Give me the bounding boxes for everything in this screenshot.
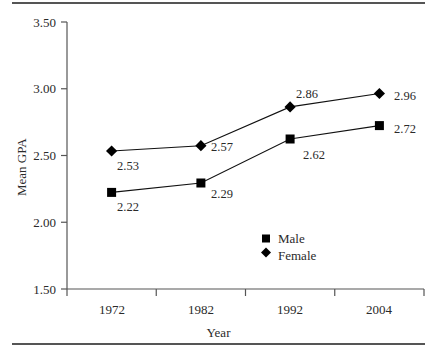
x-axis-title: Year (0, 325, 437, 341)
data-label-male-1992: 2.62 (303, 149, 325, 162)
legend-square-marker (262, 235, 270, 243)
marker-female-1972 (106, 145, 117, 156)
x-tick-label-1982: 1982 (171, 303, 231, 316)
x-tick-label-2004: 2004 (349, 303, 409, 316)
marker-male-1992 (286, 135, 295, 144)
x-tick-label-1972: 1972 (82, 303, 142, 316)
marker-male-1982 (196, 179, 205, 188)
x-tick-label-1992: 1992 (260, 303, 320, 316)
data-label-female-1972: 2.53 (117, 160, 139, 173)
y-axis-title: Mean GPA (14, 138, 30, 196)
series-line-female (112, 94, 380, 152)
y-tick-label-150: 1.50 (16, 283, 56, 296)
chart-figure: 3.50 3.00 2.50 2.00 1.50 Mean GPA 1972 1… (0, 0, 437, 352)
legend-item-male: Male (278, 232, 305, 245)
series-line-male (112, 126, 380, 193)
data-label-female-2004: 2.96 (394, 90, 416, 103)
marker-male-1972 (107, 188, 116, 197)
data-label-male-1982: 2.29 (211, 188, 233, 201)
data-label-male-2004: 2.72 (394, 123, 416, 136)
marker-female-1982 (195, 140, 206, 151)
legend-diamond-marker (261, 248, 271, 258)
data-label-female-1992: 2.86 (296, 88, 318, 101)
y-tick-label-200: 2.00 (16, 216, 56, 229)
marker-male-2004 (375, 121, 384, 130)
y-tick-label-300: 3.00 (16, 82, 56, 95)
marker-female-2004 (374, 88, 385, 99)
data-label-female-1982: 2.57 (211, 141, 233, 154)
data-label-male-1972: 2.22 (117, 201, 139, 214)
marker-female-1992 (285, 101, 296, 112)
y-tick-label-350: 3.50 (16, 16, 56, 29)
plot-area (0, 0, 437, 352)
legend-item-female: Female (278, 249, 316, 262)
